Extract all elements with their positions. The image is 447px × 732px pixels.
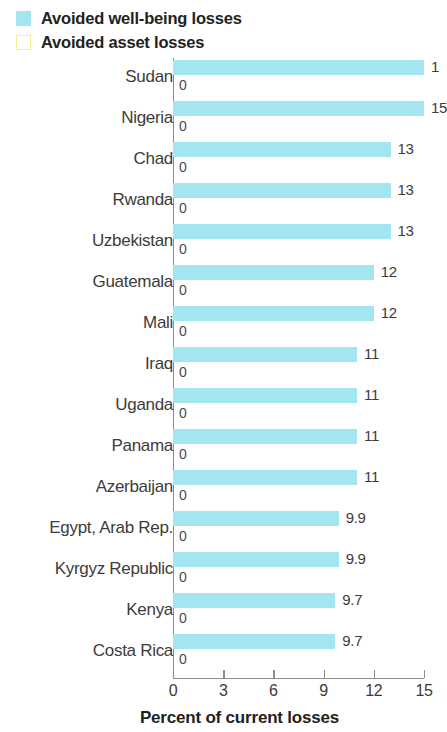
bar-pair: 130 <box>173 181 439 222</box>
x-axis-tick <box>273 670 274 678</box>
x-axis-tick <box>173 670 174 678</box>
bar-group: Chad130 <box>0 140 439 181</box>
x-axis-tick-label: 0 <box>169 682 178 700</box>
bar-value-label-asset: 0 <box>179 569 187 585</box>
x-axis-tick <box>424 670 425 678</box>
bar-pair: 120 <box>173 263 439 304</box>
bar-value-label-asset: 0 <box>179 610 187 626</box>
bar-value-label-wellbeing: 12 <box>381 263 397 280</box>
bar-value-label-wellbeing: 9.9 <box>346 509 366 526</box>
category-label: Panama <box>5 436 173 456</box>
bar-chart-plot-area: Sudan10Nigeria150Chad130Rwanda130Uzbekis… <box>0 58 439 678</box>
legend-label-wellbeing: Avoided well-being losses <box>41 9 242 28</box>
x-axis-tick <box>324 670 325 678</box>
x-axis-tick-label: 9 <box>319 682 328 700</box>
category-label: Guatemala <box>5 272 173 292</box>
bar-wellbeing <box>173 429 357 444</box>
bar-value-label-asset: 0 <box>179 282 187 298</box>
bar-value-label-wellbeing: 11 <box>364 468 379 485</box>
category-label: Mali <box>5 313 173 333</box>
bar-value-label-wellbeing: 9.9 <box>346 550 366 567</box>
x-axis-tick <box>374 670 375 678</box>
x-axis-tick-label: 3 <box>219 682 228 700</box>
bar-wellbeing <box>173 142 391 157</box>
bar-group: Guatemala120 <box>0 263 439 304</box>
bar-pair: 110 <box>173 427 439 468</box>
bar-value-label-wellbeing: 13 <box>398 181 414 198</box>
bar-group: Uganda110 <box>0 386 439 427</box>
bar-wellbeing <box>173 101 424 116</box>
category-label: Iraq <box>5 354 173 374</box>
bar-wellbeing <box>173 593 335 608</box>
bar-pair: 9.90 <box>173 509 439 550</box>
bar-value-label-wellbeing: 9.7 <box>342 591 362 608</box>
bar-value-label-wellbeing: 12 <box>381 304 397 321</box>
bar-group: Costa Rica9.70 <box>0 632 439 673</box>
bar-wellbeing <box>173 347 357 362</box>
bar-group: Panama110 <box>0 427 439 468</box>
bar-value-label-asset: 0 <box>179 118 187 134</box>
x-axis-tick-label: 6 <box>269 682 278 700</box>
category-label: Egypt, Arab Rep. <box>5 518 173 538</box>
bar-group: Sudan10 <box>0 58 439 99</box>
bar-value-label-wellbeing: 13 <box>398 222 414 239</box>
bar-pair: 110 <box>173 345 439 386</box>
category-label: Chad <box>5 149 173 169</box>
legend-swatch-asset-icon <box>16 35 31 50</box>
category-label: Costa Rica <box>5 641 173 661</box>
bar-wellbeing <box>173 511 339 526</box>
bar-value-label-asset: 0 <box>179 241 187 257</box>
x-axis-title: Percent of current losses <box>0 708 439 728</box>
bar-value-label-asset: 0 <box>179 528 187 544</box>
bar-wellbeing <box>173 306 374 321</box>
bar-wellbeing <box>173 60 424 75</box>
category-label: Kyrgyz Republic <box>5 559 173 579</box>
bar-group: Uzbekistan130 <box>0 222 439 263</box>
bar-wellbeing <box>173 470 357 485</box>
bar-value-label-asset: 0 <box>179 323 187 339</box>
legend-item-wellbeing: Avoided well-being losses <box>16 6 436 30</box>
bar-value-label-wellbeing: 13 <box>398 140 414 157</box>
bar-value-label-asset: 0 <box>179 364 187 380</box>
bar-value-label-asset: 0 <box>179 159 187 175</box>
bar-pair: 9.70 <box>173 591 439 632</box>
legend-item-asset: Avoided asset losses <box>16 30 436 54</box>
bar-pair: 10 <box>173 58 439 99</box>
bar-value-label-wellbeing: 11 <box>364 345 379 362</box>
category-label: Uganda <box>5 395 173 415</box>
legend-label-asset: Avoided asset losses <box>41 33 204 52</box>
bar-value-label-wellbeing: 1 <box>431 58 439 75</box>
bar-group: Nigeria150 <box>0 99 439 140</box>
bar-value-label-asset: 0 <box>179 651 187 667</box>
bar-group: Kyrgyz Republic9.90 <box>0 550 439 591</box>
bar-group: Mali120 <box>0 304 439 345</box>
bar-pair: 150 <box>173 99 439 140</box>
bar-pair: 130 <box>173 222 439 263</box>
bar-wellbeing <box>173 634 335 649</box>
category-label: Azerbaijan <box>5 477 173 497</box>
x-axis-tick-label: 12 <box>365 682 382 700</box>
bar-group: Iraq110 <box>0 345 439 386</box>
bar-pair: 9.70 <box>173 632 439 673</box>
legend-swatch-wellbeing-icon <box>16 11 31 26</box>
bar-value-label-asset: 0 <box>179 200 187 216</box>
bar-group: Rwanda130 <box>0 181 439 222</box>
bar-wellbeing <box>173 183 391 198</box>
bar-value-label-wellbeing: 9.7 <box>342 632 362 649</box>
bar-group: Azerbaijan110 <box>0 468 439 509</box>
bar-value-label-asset: 0 <box>179 77 187 93</box>
bar-value-label-asset: 0 <box>179 487 187 503</box>
bar-wellbeing <box>173 388 357 403</box>
bar-pair: 9.90 <box>173 550 439 591</box>
bar-wellbeing <box>173 265 374 280</box>
category-label: Kenya <box>5 600 173 620</box>
bar-wellbeing <box>173 224 391 239</box>
category-label: Uzbekistan <box>5 231 173 251</box>
x-axis-tick <box>223 670 224 678</box>
bar-value-label-wellbeing: 11 <box>364 427 379 444</box>
bar-pair: 130 <box>173 140 439 181</box>
x-axis: 03691215 Percent of current losses <box>0 678 439 732</box>
bar-value-label-asset: 0 <box>179 405 187 421</box>
x-axis-line <box>173 678 424 679</box>
bar-pair: 110 <box>173 386 439 427</box>
